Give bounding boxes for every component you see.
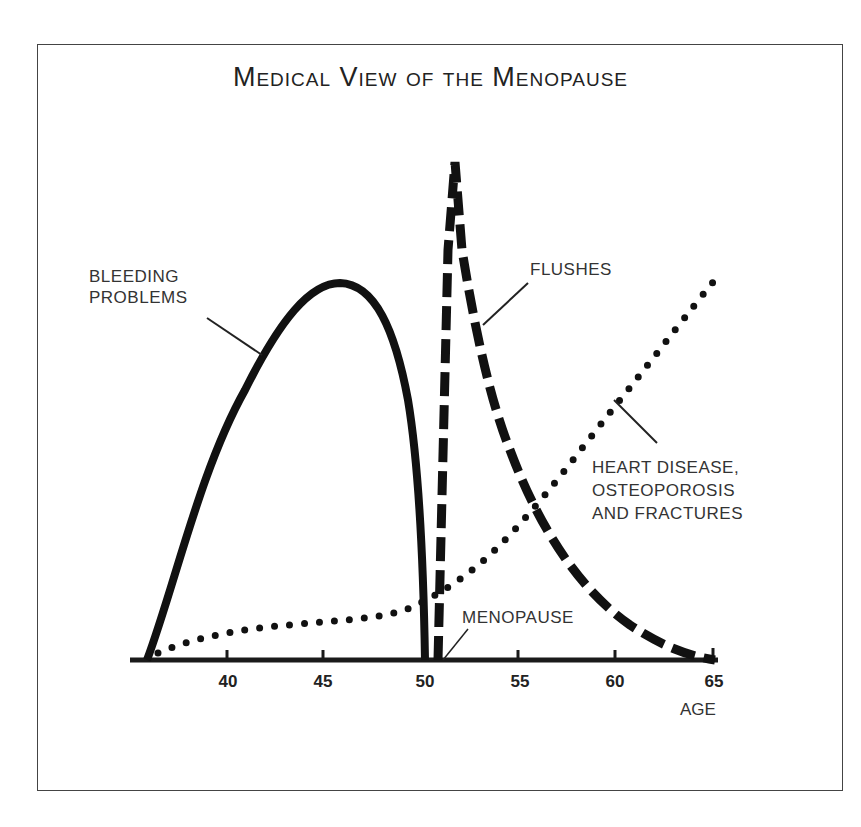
tick-label-50: 50 [416, 672, 435, 692]
tick-label-40: 40 [219, 672, 238, 692]
tick-label-60: 60 [606, 672, 625, 692]
series-bleeding-problems [147, 283, 425, 660]
label-menopause: MENOPAUSE [462, 607, 574, 628]
series-flushes [438, 162, 715, 660]
x-axis-title: AGE [680, 700, 716, 720]
label-bleeding-line1: BLEEDING [89, 266, 187, 287]
label-heart-disease: HEART DISEASE, OSTEOPOROSIS AND FRACTURE… [592, 456, 743, 525]
tick-label-45: 45 [314, 672, 333, 692]
tick-label-65: 65 [705, 672, 724, 692]
tick-label-55: 55 [511, 672, 530, 692]
label-heart-line2: OSTEOPOROSIS [592, 479, 743, 502]
label-flushes: FLUSHES [530, 259, 612, 280]
label-bleeding-problems: BLEEDING PROBLEMS [89, 266, 187, 308]
plot-area [0, 0, 861, 827]
label-bleeding-line2: PROBLEMS [89, 287, 187, 308]
label-heart-line1: HEART DISEASE, [592, 456, 743, 479]
leader-bleeding [207, 318, 262, 355]
leader-flushes [483, 283, 528, 325]
leader-heart [614, 400, 657, 443]
leader-menopause [443, 629, 468, 660]
label-heart-line3: AND FRACTURES [592, 502, 743, 525]
